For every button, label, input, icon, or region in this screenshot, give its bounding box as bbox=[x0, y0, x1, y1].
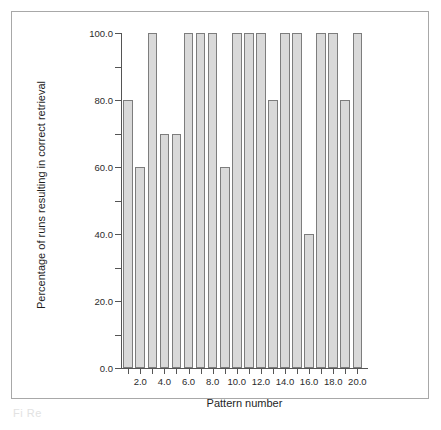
bar bbox=[340, 100, 350, 368]
x-tick bbox=[201, 369, 202, 374]
x-tick-label: 14.0 bbox=[276, 376, 295, 387]
x-tick bbox=[237, 369, 238, 374]
bar bbox=[268, 100, 278, 368]
x-tick bbox=[176, 369, 177, 374]
y-tick-label: 60.0 bbox=[69, 162, 113, 173]
bar bbox=[353, 33, 363, 368]
bar bbox=[196, 33, 206, 368]
x-tick-label: 12.0 bbox=[252, 376, 271, 387]
x-tick bbox=[225, 369, 226, 374]
bar bbox=[304, 234, 314, 368]
x-tick bbox=[152, 369, 153, 374]
y-tick-label: 80.0 bbox=[69, 95, 113, 106]
bar bbox=[256, 33, 266, 368]
x-tick-label: 18.0 bbox=[324, 376, 343, 387]
bar bbox=[135, 167, 145, 368]
x-tick bbox=[297, 369, 298, 374]
bar bbox=[232, 33, 242, 368]
x-tick bbox=[273, 369, 274, 374]
y-axis-title: Percentage of runs resulting in correct … bbox=[35, 45, 47, 345]
y-tick-label: 40.0 bbox=[69, 229, 113, 240]
caption-fragment: Fi Re bbox=[13, 407, 153, 423]
x-tick bbox=[357, 369, 358, 374]
x-tick-label: 16.0 bbox=[300, 376, 319, 387]
x-tick bbox=[285, 369, 286, 374]
x-tick bbox=[128, 369, 129, 374]
bar bbox=[184, 33, 194, 368]
y-tick-label: 20.0 bbox=[69, 296, 113, 307]
x-tick-label: 2.0 bbox=[134, 376, 147, 387]
x-tick bbox=[164, 369, 165, 374]
x-tick-label: 8.0 bbox=[206, 376, 219, 387]
x-tick bbox=[345, 369, 346, 374]
x-tick-label: 4.0 bbox=[158, 376, 171, 387]
bar bbox=[244, 33, 254, 368]
y-tick-label: 100.0 bbox=[69, 28, 113, 39]
bar bbox=[123, 100, 133, 368]
figure-frame: 0.020.040.060.080.0100.0 2.04.06.08.010.… bbox=[11, 11, 429, 399]
x-axis-line bbox=[121, 368, 368, 369]
bar bbox=[220, 167, 230, 368]
bar bbox=[160, 134, 170, 369]
bar bbox=[172, 134, 182, 369]
bar-chart: 0.020.040.060.080.0100.0 2.04.06.08.010.… bbox=[12, 12, 430, 400]
bar bbox=[328, 33, 338, 368]
x-tick bbox=[189, 369, 190, 374]
x-tick bbox=[213, 369, 214, 374]
x-tick-label: 6.0 bbox=[182, 376, 195, 387]
bar bbox=[280, 33, 290, 368]
y-tick-label: 0.0 bbox=[69, 363, 113, 374]
x-tick bbox=[140, 369, 141, 374]
x-axis-title: Pattern number bbox=[121, 397, 368, 409]
bar bbox=[292, 33, 302, 368]
plot-area bbox=[121, 33, 367, 368]
x-tick-label: 20.0 bbox=[348, 376, 367, 387]
x-tick-label: 10.0 bbox=[228, 376, 247, 387]
bar bbox=[208, 33, 218, 368]
bar bbox=[148, 33, 158, 368]
x-tick bbox=[309, 369, 310, 374]
y-tick-major bbox=[115, 368, 121, 369]
x-tick bbox=[261, 369, 262, 374]
y-axis-tick-labels: 0.020.040.060.080.0100.0 bbox=[57, 12, 113, 400]
bar bbox=[316, 33, 326, 368]
x-tick bbox=[249, 369, 250, 374]
x-tick bbox=[321, 369, 322, 374]
x-tick bbox=[333, 369, 334, 374]
